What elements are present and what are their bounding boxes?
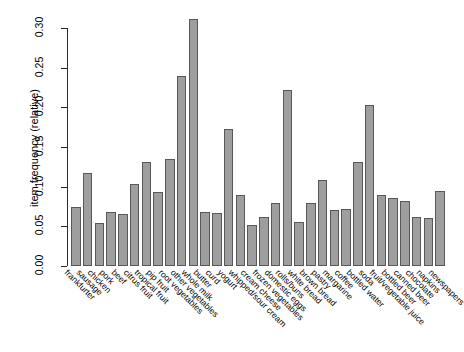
y-axis-tick-label: 0.25	[22, 61, 56, 75]
y-axis-tick-label-text: 0.05	[33, 208, 45, 242]
y-axis-tick-label-text: 0.25	[33, 50, 45, 84]
y-axis-tick-label: 0.10	[22, 180, 56, 194]
bar	[318, 180, 328, 266]
y-axis-tick	[61, 107, 67, 108]
bar	[236, 195, 246, 266]
bar	[83, 173, 93, 266]
bar	[365, 105, 375, 266]
y-axis-tick	[61, 226, 67, 227]
bar	[200, 212, 210, 266]
bar	[400, 201, 410, 266]
bar	[130, 184, 140, 267]
bar	[353, 162, 363, 266]
bar	[118, 214, 128, 266]
y-axis-tick	[61, 187, 67, 188]
plot-area	[68, 14, 446, 266]
bar	[212, 213, 222, 266]
item-frequency-bar-chart: item frequency (relative) 0.000.050.100.…	[0, 0, 464, 352]
bar	[330, 210, 340, 266]
y-axis-tick	[61, 68, 67, 69]
y-axis-tick	[61, 28, 67, 29]
y-axis-tick	[61, 147, 67, 148]
x-axis-labels: frankfurtersausagechickenporkbeefcitrus …	[0, 266, 464, 352]
bar	[106, 212, 116, 266]
bar	[424, 218, 434, 266]
bar	[224, 129, 234, 266]
bar	[177, 76, 187, 266]
y-axis-tick-label: 0.05	[22, 219, 56, 233]
bar	[95, 223, 105, 266]
bar	[71, 207, 81, 266]
y-axis-tick-label: 0.20	[22, 100, 56, 114]
bar	[142, 162, 152, 266]
y-axis-tick-label: 0.30	[22, 21, 56, 35]
bar	[388, 198, 398, 266]
bar	[377, 195, 387, 266]
bar	[165, 159, 175, 266]
bar	[412, 217, 422, 266]
bar	[259, 217, 269, 266]
bar	[306, 203, 316, 266]
bar	[435, 191, 445, 266]
bar	[341, 209, 351, 266]
bar	[271, 203, 281, 266]
bar	[153, 192, 163, 266]
bar	[294, 222, 304, 266]
y-axis-tick-label-text: 0.20	[33, 89, 45, 123]
y-axis-tick-label-text: 0.30	[33, 10, 45, 44]
bar	[247, 225, 257, 266]
y-axis-tick-label: 0.15	[22, 140, 56, 154]
bar	[283, 90, 293, 266]
y-axis-tick-label-text: 0.15	[33, 129, 45, 163]
bar	[189, 19, 199, 266]
y-axis-tick-label-text: 0.10	[33, 169, 45, 203]
